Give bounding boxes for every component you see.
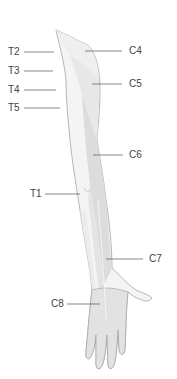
- zone-hand: [86, 288, 128, 369]
- label-t1: T1: [30, 189, 42, 199]
- label-c8: C8: [51, 299, 64, 309]
- label-c4: C4: [129, 46, 142, 56]
- label-c5: C5: [129, 79, 142, 89]
- label-t3: T3: [8, 66, 20, 76]
- label-t2: T2: [8, 47, 20, 57]
- label-t4: T4: [8, 85, 20, 95]
- label-c6: C6: [129, 150, 142, 160]
- label-t5: T5: [8, 103, 20, 113]
- arm-dermatome-diagram: [0, 0, 177, 379]
- label-c7: C7: [149, 254, 162, 264]
